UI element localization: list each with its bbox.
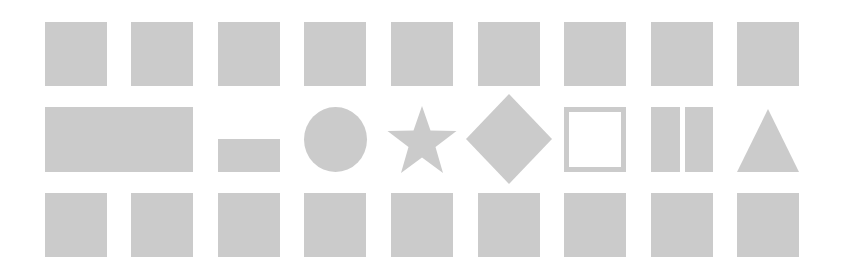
star-icon[interactable] — [387, 106, 457, 174]
square-tile[interactable] — [304, 22, 366, 86]
square-tile[interactable] — [218, 22, 280, 86]
square-tile[interactable] — [564, 22, 626, 86]
left-bar — [651, 107, 680, 172]
small-rectangle-tile[interactable] — [218, 139, 280, 172]
right-bar — [685, 107, 713, 172]
diamond-icon[interactable] — [466, 94, 552, 184]
square-tile[interactable] — [391, 193, 453, 257]
circle-tile[interactable] — [304, 107, 367, 172]
square-tile[interactable] — [45, 22, 107, 86]
square-tile[interactable] — [391, 22, 453, 86]
triangle-icon[interactable] — [737, 109, 799, 172]
square-tile[interactable] — [304, 193, 366, 257]
square-tile[interactable] — [478, 22, 540, 86]
square-tile[interactable] — [737, 22, 799, 86]
square-tile[interactable] — [737, 193, 799, 257]
square-tile[interactable] — [131, 193, 193, 257]
square-tile[interactable] — [45, 193, 107, 257]
square-tile[interactable] — [218, 193, 280, 257]
square-tile[interactable] — [651, 22, 713, 86]
square-tile[interactable] — [564, 193, 626, 257]
square-tile[interactable] — [478, 193, 540, 257]
wide-rectangle-tile[interactable] — [45, 107, 193, 172]
square-tile[interactable] — [131, 22, 193, 86]
hollow-square-tile[interactable] — [564, 107, 626, 172]
square-tile[interactable] — [651, 193, 713, 257]
